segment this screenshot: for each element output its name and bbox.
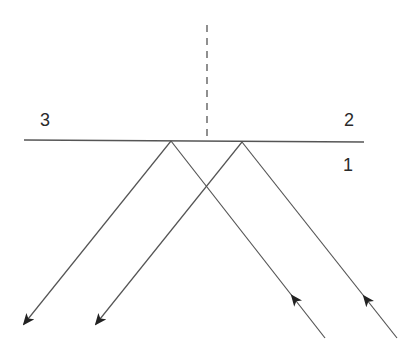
reflected-ray-a [24,141,171,324]
incident-ray-a [171,141,325,338]
incident-ray-b [242,142,397,338]
interface-line [24,140,364,142]
medium-3-label: 3 [40,111,50,129]
medium-2-label: 2 [344,111,354,129]
medium-1-label: 1 [343,156,353,174]
reflected-ray-b [96,142,242,324]
reflection-diagram [0,0,418,348]
